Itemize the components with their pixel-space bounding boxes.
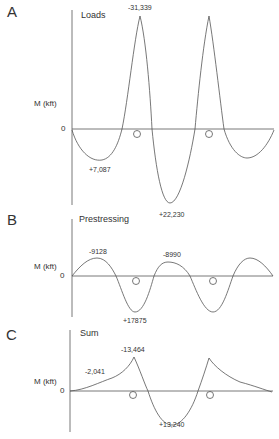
panel-c-y-label: M (kft) (34, 377, 57, 386)
panel-b-title: Prestressing (79, 214, 129, 224)
panel-b-zero-label: 0 (60, 271, 64, 280)
panel-a-y-label: M (kft) (34, 99, 57, 108)
panel-b-trough-label: +17875 (123, 317, 147, 324)
panel-a-zero-label: 0 (61, 124, 65, 133)
panel-c-support-2 (207, 392, 214, 399)
panel-c-letter: C (6, 326, 17, 343)
panel-b-support-2 (210, 278, 217, 285)
panel-a-title: Loads (81, 10, 106, 20)
panel-b-letter: B (7, 211, 17, 228)
panel-b-support-1 (133, 278, 140, 285)
panel-c-title: Sum (80, 328, 99, 338)
panel-b-left-peak-label: -9128 (89, 248, 107, 255)
panel-c-peak-label: -13,464 (121, 346, 145, 353)
panel-a-letter: A (7, 3, 17, 20)
panel-b-y-label: M (kft) (34, 262, 57, 271)
panel-a-left-span-label: +7,087 (89, 166, 111, 173)
panel-a-moment-curve (72, 16, 274, 203)
panel-c-zero-label: 0 (60, 386, 64, 395)
panel-a-support-2 (206, 131, 213, 138)
panel-a-support-1 (134, 131, 141, 138)
panel-b-moment-curve (72, 258, 273, 312)
panel-c-left-label: -2,041 (85, 368, 105, 375)
moment-diagrams (0, 0, 279, 439)
panel-a-peak-label: -31,339 (128, 4, 152, 11)
panel-b-mid-peak-label: -8990 (163, 251, 181, 258)
panel-a-mid-span-label: +22,230 (159, 211, 185, 218)
panel-c-trough-label: +13,240 (159, 421, 185, 428)
panel-c-support-1 (130, 392, 137, 399)
